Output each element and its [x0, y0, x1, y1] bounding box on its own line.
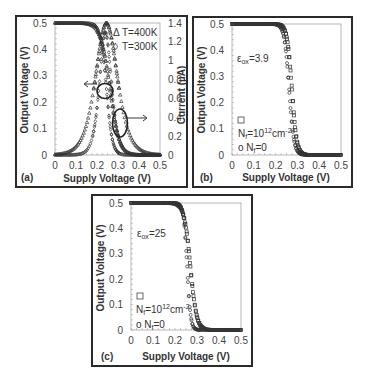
y-tick-label: 0.1: [109, 299, 123, 310]
legend-label-nf-1e12-c: Nf=1012cm-2: [136, 303, 190, 316]
chart-a: 00.10.20.30.40.500.10.20.30.40.500.20.40…: [19, 18, 187, 185]
x-tick-label: 0.1: [146, 335, 160, 346]
legend-label-400k: T=400K: [122, 27, 158, 38]
y-tick-label: 0.2: [33, 97, 47, 108]
x-tick-label: 0.3: [190, 335, 204, 346]
y-tick-label: 0.3: [33, 70, 47, 81]
x-tick-label: 0.5: [153, 160, 167, 171]
y-tick-label: 0.3: [210, 71, 224, 82]
legend-label-nf-1e12-b: Nf=1012cm-2: [238, 127, 292, 140]
x-tick-label: 0.3: [111, 160, 125, 171]
legend-a: Δ T=400K ◊ T=300K: [113, 27, 158, 52]
y-tick-label: 0.5: [109, 198, 123, 209]
panel-label-c: (c): [101, 351, 113, 362]
x-tick-label: 0.4: [312, 160, 326, 171]
x-tick-label: 0.5: [234, 335, 248, 346]
y2-tick-label: 0.2: [168, 131, 182, 142]
x-tick-label: 0.4: [212, 335, 226, 346]
chart-b: 00.10.20.30.40.500.10.20.30.40.5 Supply …: [196, 19, 348, 184]
legend-b: Nf=1012cm-2 o Nf=0: [238, 117, 292, 154]
y-axis-label-c: Output Voltage (V): [95, 224, 106, 311]
y-tick-label: 0.5: [33, 18, 47, 29]
legend-c: Nf=1012cm-2 o Nf=0: [136, 293, 190, 331]
legend-label-300k: T=300K: [122, 41, 158, 52]
x-tick-label: 0.2: [269, 160, 283, 171]
x-axis-label-c: Supply Voltage (V): [142, 351, 230, 362]
y-tick-label: 0: [218, 150, 224, 161]
y-tick-label: 0.2: [210, 97, 224, 108]
x-tick-label: 0.5: [334, 160, 348, 171]
y2-tick-label: 1: [168, 55, 174, 66]
diamond-marker-icon: ◊: [113, 41, 118, 52]
y-axis-label-a: Output Voltage (V): [19, 46, 30, 133]
y-axis-label-b: Output Voltage (V): [196, 46, 207, 133]
y-tick-label: 0.2: [109, 274, 123, 285]
x-axis-label-a: Supply Voltage (V): [63, 173, 151, 184]
triangle-marker-icon: Δ: [113, 27, 120, 38]
panel-label-a: (a): [21, 172, 33, 183]
x-tick-label: 0.3: [290, 160, 304, 171]
chart-c: 00.10.20.30.40.500.10.20.30.40.5 Supply …: [95, 198, 248, 363]
y2-tick-label: 0: [168, 150, 174, 161]
y-tick-label: 0.1: [210, 123, 224, 134]
x-tick-label: 0.2: [168, 335, 182, 346]
axis-ticks-b: 00.10.20.30.40.500.10.20.30.40.5: [210, 19, 348, 172]
x-tick-label: 0: [52, 160, 58, 171]
epsilon-annotation-b: εox=3.9: [237, 53, 269, 65]
y-tick-label: 0.1: [33, 123, 47, 134]
y-tick-label: 0: [41, 150, 47, 161]
x-tick-label: 0.4: [132, 160, 146, 171]
y-tick-label: 0.4: [33, 44, 47, 55]
y-tick-label: 0: [117, 325, 123, 336]
y-tick-label: 0.5: [210, 19, 224, 30]
panel-label-b: (b): [200, 172, 213, 183]
x-tick-label: 0.2: [90, 160, 104, 171]
y-tick-label: 0.4: [109, 223, 123, 234]
axis-ticks-c: 00.10.20.30.40.500.10.20.30.40.5: [109, 198, 248, 347]
square-marker-icon: [137, 293, 143, 299]
x-tick-label: 0.1: [69, 160, 83, 171]
legend-label-nf-0-c: o Nf=0: [136, 319, 165, 331]
x-axis-label-b: Supply Voltage (V): [242, 172, 330, 183]
x-tick-label: 0: [128, 335, 134, 346]
y2-tick-label: 1.4: [168, 18, 182, 29]
y2-tick-label: 1.2: [168, 36, 182, 47]
y-tick-label: 0.3: [109, 248, 123, 259]
square-marker-icon: [238, 117, 244, 123]
legend-label-nf-0-b: o Nf=0: [238, 142, 267, 154]
y-tick-label: 0.4: [210, 45, 224, 56]
x-tick-label: 0: [229, 160, 235, 171]
epsilon-annotation-c: εox=25: [137, 228, 166, 240]
figure-svg: 00.10.20.30.40.500.10.20.30.40.500.20.40…: [0, 0, 366, 383]
x-tick-label: 0.1: [247, 160, 261, 171]
y2-axis-label-a: Current (µA): [176, 66, 187, 125]
